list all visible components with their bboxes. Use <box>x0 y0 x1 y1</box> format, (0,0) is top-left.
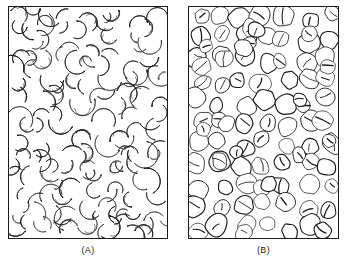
round-cell <box>320 60 335 74</box>
round-cell <box>281 71 298 89</box>
sickle-cell <box>40 184 62 201</box>
sickle-cell <box>133 171 147 190</box>
sickle-cell <box>157 105 167 122</box>
round-cell <box>317 159 335 175</box>
cell-crease <box>49 94 55 104</box>
sickle-cell <box>130 86 149 106</box>
panel-b-caption: (B) <box>188 245 339 255</box>
sickle-cell <box>134 141 158 168</box>
round-cell <box>321 202 336 219</box>
sickle-cell <box>127 225 145 238</box>
sickle-cell <box>101 29 116 44</box>
sickle-cell <box>90 88 105 103</box>
sickle-cell <box>72 130 91 145</box>
round-cell <box>208 132 225 149</box>
sickle-cell <box>53 82 64 94</box>
sickle-cell <box>123 192 132 207</box>
sickle-cell <box>33 221 45 232</box>
round-cell <box>282 224 298 238</box>
sickle-cell <box>54 206 75 230</box>
round-cell <box>293 93 306 106</box>
cell-crease <box>21 169 25 179</box>
panel-a-frame <box>8 6 168 239</box>
round-cell <box>300 174 320 194</box>
round-cell <box>254 193 270 209</box>
sickle-cell <box>36 118 43 132</box>
round-cell <box>278 117 297 136</box>
round-cell <box>316 88 335 106</box>
sickle-cell <box>20 166 29 185</box>
panel-b <box>188 6 339 239</box>
sickle-cell <box>103 10 119 21</box>
sickle-cell <box>99 198 116 212</box>
sickle-cell <box>95 135 120 157</box>
sickle-cell <box>21 215 26 229</box>
sickle-cell <box>131 33 138 43</box>
sickle-cell <box>83 56 95 67</box>
cell-field <box>189 7 338 238</box>
sickle-cell <box>158 72 166 80</box>
sickle-cell <box>65 50 85 74</box>
panel-b-frame <box>188 6 339 239</box>
sickle-cell <box>160 221 167 226</box>
sickle-cell <box>37 30 49 49</box>
sickle-cell <box>13 215 21 223</box>
sickle-cell <box>42 14 55 35</box>
sickle-cell <box>49 120 73 134</box>
sickle-cell <box>70 99 96 116</box>
sickle-cell <box>81 144 93 163</box>
round-cell <box>261 176 276 191</box>
sickle-cell <box>108 182 123 193</box>
sickle-cell <box>11 7 28 22</box>
sickle-cell <box>102 48 118 54</box>
sickle-cell <box>56 47 63 61</box>
sickle-cell <box>92 109 116 127</box>
figure-container: (A) (B) <box>0 0 347 262</box>
round-cell <box>213 153 227 170</box>
round-cell <box>210 97 223 113</box>
central-pallor-mark <box>322 65 333 66</box>
normal-cell-micrograph-drawing <box>189 7 338 238</box>
round-cell <box>234 40 252 57</box>
sickle-cell <box>78 79 84 94</box>
sickle-cell <box>13 50 30 63</box>
sickle-cell <box>23 202 29 213</box>
sickle-cell <box>83 170 95 179</box>
round-cell <box>276 192 296 211</box>
sickle-cell <box>100 56 109 76</box>
sickle-cell <box>34 202 45 220</box>
sickle-cell <box>60 42 79 49</box>
sickle-cell <box>40 75 63 91</box>
sickle-cell <box>110 131 129 142</box>
sickle-cell-micrograph-drawing <box>9 7 167 238</box>
round-cell <box>260 217 275 231</box>
sickle-cell <box>98 224 107 238</box>
cell-crease <box>85 154 86 159</box>
sickle-cell <box>17 188 23 199</box>
round-cell <box>275 94 296 114</box>
round-cell <box>236 114 253 134</box>
cell-crease <box>63 26 67 32</box>
sickle-cell <box>59 178 79 197</box>
cell-crease <box>99 25 108 30</box>
panel-a <box>8 6 168 239</box>
sickle-cell <box>150 150 160 160</box>
sickle-cell <box>126 213 141 220</box>
sickle-cell <box>121 146 138 154</box>
round-cell <box>254 131 269 147</box>
sickle-cell <box>74 21 87 39</box>
cell-crease <box>42 173 51 181</box>
sickle-cell <box>49 85 63 105</box>
sickle-cell <box>109 206 115 222</box>
round-cell <box>260 114 275 131</box>
sickle-cell <box>52 194 71 205</box>
sickle-cell <box>43 217 51 229</box>
sickle-cell <box>148 141 165 158</box>
sickle-cell <box>122 107 137 119</box>
sickle-cell <box>9 55 24 72</box>
cell-field <box>9 7 167 238</box>
sickle-cell <box>80 201 99 220</box>
round-cell <box>312 111 333 130</box>
round-cell <box>325 7 338 21</box>
sickle-cell <box>118 98 125 115</box>
